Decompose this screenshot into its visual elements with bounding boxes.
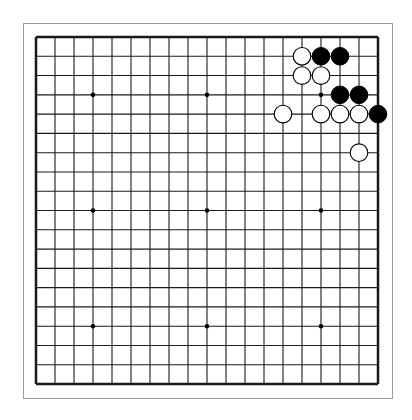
white-stone[interactable] <box>312 105 330 123</box>
star-point <box>319 93 324 98</box>
black-stone[interactable] <box>369 105 387 123</box>
black-stone[interactable] <box>312 47 330 65</box>
black-stone[interactable] <box>350 86 368 104</box>
star-point <box>205 324 210 329</box>
white-stone[interactable] <box>293 47 311 65</box>
stones-layer[interactable] <box>274 47 387 161</box>
star-point <box>91 208 96 213</box>
black-stone[interactable] <box>331 47 349 65</box>
star-point <box>319 208 324 213</box>
star-point <box>205 93 210 98</box>
white-stone[interactable] <box>293 67 311 85</box>
star-point <box>91 93 96 98</box>
white-stone[interactable] <box>312 67 330 85</box>
star-point <box>205 208 210 213</box>
white-stone[interactable] <box>350 144 368 162</box>
star-point <box>91 324 96 329</box>
white-stone[interactable] <box>350 105 368 123</box>
star-point <box>319 324 324 329</box>
black-stone[interactable] <box>331 86 349 104</box>
white-stone[interactable] <box>274 105 292 123</box>
go-board[interactable] <box>0 0 412 420</box>
white-stone[interactable] <box>331 105 349 123</box>
